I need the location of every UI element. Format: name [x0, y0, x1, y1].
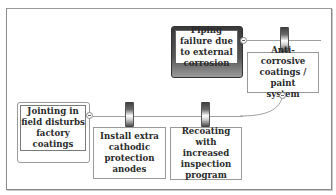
threat-line: Jointing in — [27, 106, 78, 116]
barrier-line: anodes — [98, 164, 161, 175]
barrier-line: protection — [98, 153, 161, 164]
barrier-node-recoating[interactable]: Recoating with increased inspection prog… — [170, 127, 242, 180]
threat-line: factory — [36, 128, 70, 138]
minus-circle-icon[interactable] — [86, 112, 93, 119]
top-event-node[interactable]: Piping failure due to external corrosion — [171, 26, 243, 78]
barrier-line: coatings / paint — [248, 67, 318, 89]
minus-circle-icon[interactable] — [240, 37, 247, 44]
barrier-line: Anti-corrosive — [248, 45, 318, 67]
threat-line: coatings — [33, 139, 74, 149]
barrier-node-cathodic-protection[interactable]: Install extra cathodic protection anodes — [93, 127, 166, 179]
threat-node[interactable]: Jointing in field disturbs factory coati… — [17, 102, 90, 163]
threat-line: field disturbs — [21, 117, 85, 127]
top-event-label-box: Piping failure due to external corrosion — [175, 30, 238, 64]
minus-circle-icon[interactable] — [279, 92, 286, 99]
barrier-bar-icon — [125, 102, 134, 127]
barrier-line: program — [171, 170, 241, 181]
barrier-line: cathodic — [98, 142, 161, 153]
barrier-line: inspection — [171, 159, 241, 170]
barrier-line: Recoating with — [171, 126, 241, 148]
threat-label-box: Jointing in field disturbs factory coati… — [20, 105, 86, 151]
top-event-line: corrosion — [184, 58, 230, 68]
barrier-line: increased — [171, 148, 241, 159]
barrier-bar-icon — [201, 102, 210, 127]
barrier-node-anti-corrosive[interactable]: Anti-corrosive coatings / paint system — [247, 52, 319, 93]
barrier-line: Install extra — [98, 131, 161, 142]
